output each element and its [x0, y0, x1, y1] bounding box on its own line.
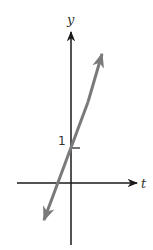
y-intercept-label: 1	[58, 134, 66, 148]
plotted-line-lower	[44, 102, 88, 220]
graph: y t 1	[0, 0, 153, 250]
plotted-line	[88, 54, 102, 102]
x-axis-label: t	[141, 176, 147, 191]
y-axis-label: y	[66, 12, 75, 27]
